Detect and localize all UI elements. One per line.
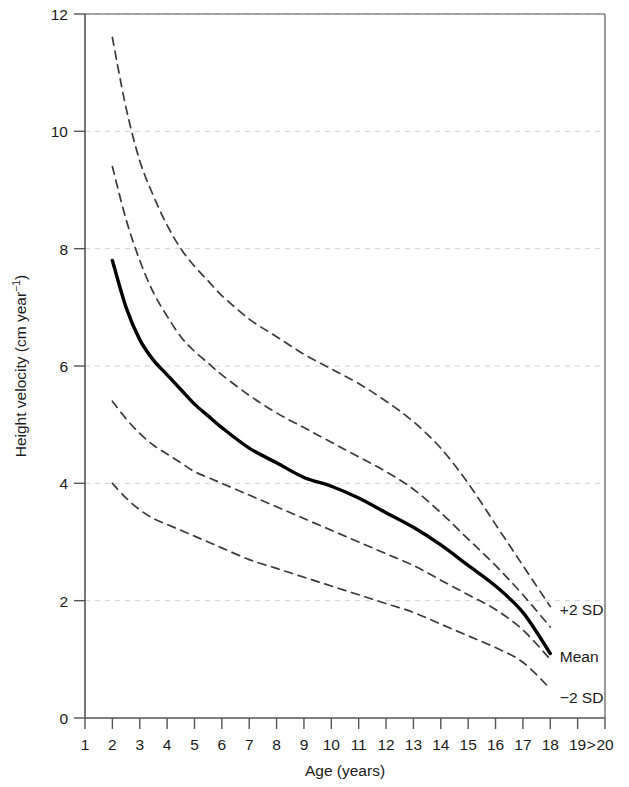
y-tick-label-12: 12 (51, 6, 68, 23)
x-tick-label-9: 9 (300, 736, 309, 753)
gridlines (85, 14, 605, 601)
x-tick-label-6: 6 (218, 736, 227, 753)
chart-canvas: 1234567891011121314151617181920> 0246810… (0, 0, 629, 787)
x-tick-label-15: 15 (460, 736, 477, 753)
curve-2-sd (112, 483, 550, 688)
y-tick-label-2: 2 (59, 593, 68, 610)
annotation-2-sd: +2 SD (560, 601, 604, 618)
annotation-mean: Mean (560, 648, 599, 665)
curve-2-sd (112, 37, 550, 606)
y-axis-title: Height velocity (cm year−1) (10, 275, 29, 458)
x-tick-label-13: 13 (405, 736, 422, 753)
x-tick-label-1: 1 (81, 736, 90, 753)
x-axis-greater-than-marker: > (587, 736, 596, 753)
height-velocity-chart: 1234567891011121314151617181920> 0246810… (0, 0, 629, 787)
x-axis-title: Age (years) (305, 762, 385, 779)
x-tick-label-14: 14 (432, 736, 450, 753)
x-tick-label-7: 7 (245, 736, 254, 753)
curve-1-sd (112, 167, 550, 628)
x-tick-label-8: 8 (272, 736, 281, 753)
x-tick-label-11: 11 (351, 736, 367, 753)
x-tick-label-3: 3 (135, 736, 144, 753)
data-curves (112, 37, 550, 688)
y-tick-label-4: 4 (59, 475, 68, 492)
x-tick-label-12: 12 (377, 736, 394, 753)
x-tick-label-20: 20 (596, 736, 614, 753)
y-tick-label-0: 0 (59, 710, 68, 727)
x-tick-label-19: 19 (569, 736, 586, 753)
x-axis-ticks: 1234567891011121314151617181920> (81, 718, 614, 753)
x-tick-label-17: 17 (514, 736, 531, 753)
y-tick-label-6: 6 (59, 358, 68, 375)
axis-titles: Age (years)Height velocity (cm year−1) (10, 275, 385, 779)
x-tick-label-16: 16 (487, 736, 504, 753)
x-tick-label-10: 10 (323, 736, 341, 753)
series-annotations: +2 SDMean−2 SD (560, 601, 604, 706)
curve-1-sd (112, 401, 550, 659)
curve-mean (112, 260, 550, 653)
x-tick-label-2: 2 (108, 736, 117, 753)
annotation-2-sd: −2 SD (560, 689, 604, 706)
y-axis-ticks: 024681012 (51, 6, 85, 727)
x-tick-label-5: 5 (190, 736, 199, 753)
y-tick-label-8: 8 (59, 241, 68, 258)
x-tick-label-18: 18 (542, 736, 559, 753)
x-tick-label-4: 4 (163, 736, 172, 753)
y-tick-label-10: 10 (51, 123, 69, 140)
